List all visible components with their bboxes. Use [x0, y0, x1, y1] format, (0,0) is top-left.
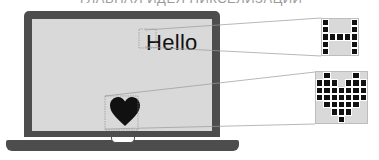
- pixel-off: [336, 48, 343, 55]
- pixel-on: [345, 108, 352, 115]
- pixel-on: [316, 87, 323, 94]
- pixel-on: [331, 108, 338, 115]
- pixel-on: [360, 87, 367, 94]
- pixel-off: [360, 72, 367, 79]
- pixel-on: [360, 79, 367, 86]
- pixel-off: [323, 116, 330, 123]
- pixel-on: [323, 79, 330, 86]
- pixel-off: [344, 19, 351, 26]
- pixel-off: [329, 19, 336, 26]
- letter-h-pixel-grid: [321, 18, 359, 56]
- pixel-off: [336, 41, 343, 48]
- pixel-on: [322, 48, 329, 55]
- pixel-off: [352, 116, 359, 123]
- pixel-on: [351, 26, 358, 33]
- pixel-on: [351, 33, 358, 40]
- pixel-on: [316, 94, 323, 101]
- pixel-on: [323, 101, 330, 108]
- pixel-off: [316, 116, 323, 123]
- pixel-on: [351, 19, 358, 26]
- pixel-off: [331, 116, 338, 123]
- pixel-on: [323, 87, 330, 94]
- pixel-on: [331, 94, 338, 101]
- pixel-off: [360, 116, 367, 123]
- pixel-on: [331, 79, 338, 86]
- pixel-on: [322, 26, 329, 33]
- pixel-on: [360, 94, 367, 101]
- pixel-off: [352, 108, 359, 115]
- pixel-off: [316, 101, 323, 108]
- pixel-on: [345, 101, 352, 108]
- pixel-on: [352, 94, 359, 101]
- pixel-on: [352, 101, 359, 108]
- pixel-off: [360, 101, 367, 108]
- pixel-off: [344, 48, 351, 55]
- pixel-on: [352, 72, 359, 79]
- pixel-on: [345, 87, 352, 94]
- pixel-on: [338, 116, 345, 123]
- heart-pixel-grid: [315, 71, 368, 124]
- pixel-on: [345, 94, 352, 101]
- pixel-off: [336, 26, 343, 33]
- pixel-off: [344, 26, 351, 33]
- pixel-on: [338, 87, 345, 94]
- pixel-on: [331, 101, 338, 108]
- pixel-on: [352, 79, 359, 86]
- pixel-on: [322, 19, 329, 26]
- pixel-off: [345, 116, 352, 123]
- pixel-on: [352, 87, 359, 94]
- pixel-off: [331, 72, 338, 79]
- pixel-off: [323, 108, 330, 115]
- pixel-on: [331, 87, 338, 94]
- pixel-on: [329, 33, 336, 40]
- pixel-on: [345, 79, 352, 86]
- pixel-off: [338, 72, 345, 79]
- pixel-on: [338, 101, 345, 108]
- pixel-off: [336, 19, 343, 26]
- pixel-on: [344, 33, 351, 40]
- pixel-on: [322, 33, 329, 40]
- pixel-on: [351, 41, 358, 48]
- pixel-on: [338, 108, 345, 115]
- pixel-on: [323, 94, 330, 101]
- pixel-on: [336, 33, 343, 40]
- pixel-off: [329, 26, 336, 33]
- pixel-off: [344, 41, 351, 48]
- pixel-off: [345, 72, 352, 79]
- pixel-on: [338, 94, 345, 101]
- pixel-off: [316, 108, 323, 115]
- pixel-off: [329, 48, 336, 55]
- pixel-on: [322, 41, 329, 48]
- pixel-off: [316, 72, 323, 79]
- pixel-on: [351, 48, 358, 55]
- pixel-off: [338, 79, 345, 86]
- pixel-off: [329, 41, 336, 48]
- pixel-on: [316, 79, 323, 86]
- pixel-off: [360, 108, 367, 115]
- pixel-on: [323, 72, 330, 79]
